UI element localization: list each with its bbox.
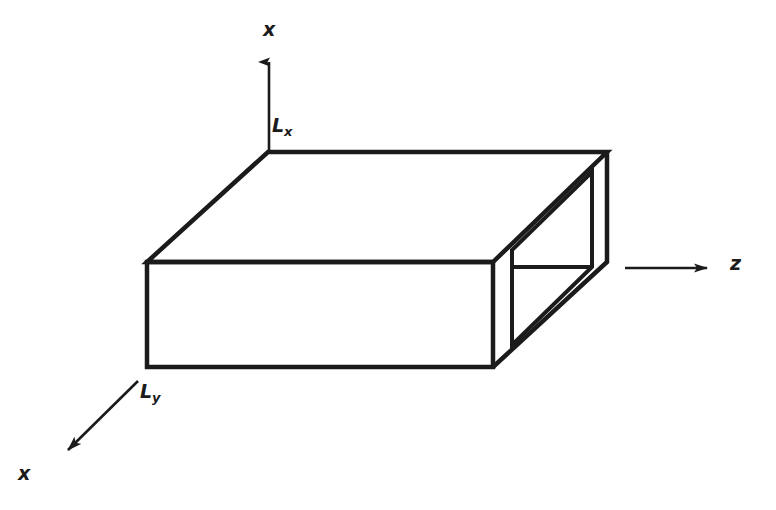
dimension-label-ly-base: L <box>140 380 152 402</box>
dimension-label-ly-subscript: y <box>152 390 160 405</box>
waveguide-diagram: x z x Lx Ly <box>0 0 776 510</box>
axis-label-x-vertical: x <box>263 18 275 40</box>
waveguide-aperture-inner <box>512 172 592 345</box>
diagram-canvas <box>0 0 776 510</box>
axis-diagonal-x <box>68 381 138 450</box>
waveguide-body <box>147 152 607 367</box>
dimension-label-lx-base: L <box>272 114 284 136</box>
axis-diagonal-x-line <box>68 381 138 450</box>
axis-label-x-diagonal: x <box>18 462 30 484</box>
waveguide-front-face <box>147 262 493 367</box>
axis-label-z: z <box>730 252 741 274</box>
dimension-label-lx-subscript: x <box>284 124 292 139</box>
waveguide-top-face <box>147 152 607 262</box>
dimension-label-lx: Lx <box>272 114 293 139</box>
dimension-label-ly: Ly <box>140 380 161 405</box>
